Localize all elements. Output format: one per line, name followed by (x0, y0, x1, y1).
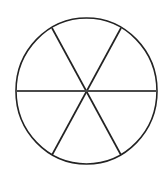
figure-canvas: Circle divided into six equal sectors A … (0, 0, 164, 170)
circle-sector-diagram: Circle divided into six equal sectors A … (0, 0, 164, 170)
